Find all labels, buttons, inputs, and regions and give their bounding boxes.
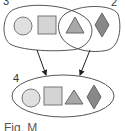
set-2-label: 2	[111, 0, 117, 8]
triangle-shape-top	[66, 17, 84, 33]
circle-shape-top	[14, 17, 32, 35]
set-2-outline	[58, 7, 119, 52]
square-shape-top	[38, 16, 56, 34]
arrow-set2-to-set4	[80, 50, 90, 75]
diamond-shape-bottom	[87, 85, 101, 109]
figure-caption: Fig. M	[4, 121, 37, 131]
set-4-label: 4	[13, 72, 19, 84]
set-union-diagram: 3 2 4	[0, 0, 125, 131]
triangle-shape-bottom	[65, 90, 83, 104]
diamond-shape-top	[95, 13, 109, 37]
circle-shape-bottom	[22, 89, 40, 107]
square-shape-bottom	[44, 87, 62, 105]
set-3-label: 3	[3, 0, 9, 7]
arrow-set3-to-set4	[37, 50, 46, 75]
